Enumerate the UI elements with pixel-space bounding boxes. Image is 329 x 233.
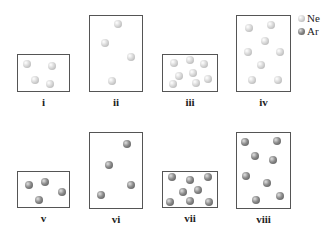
neon-particle-icon [204,75,212,83]
neon-particle-icon [169,80,177,88]
neon-particle-icon [244,48,252,56]
container-label: i [24,96,64,108]
argon-particle-icon [241,138,249,146]
neon-particle-icon [127,53,135,61]
neon-particle-icon [186,56,194,64]
neon-particle-icon [276,48,284,56]
neon-particle-icon [114,20,122,28]
neon-particle-icon [48,62,56,70]
neon-particle-icon [46,80,54,88]
argon-particle-icon [97,191,105,199]
container-label: vi [96,213,136,225]
neon-particle-icon [200,60,208,68]
argon-particle-icon [58,188,66,196]
argon-particle-icon [242,172,250,180]
container-label: iii [170,96,210,108]
neon-particle-icon [192,79,200,87]
neon-particle-icon [31,76,39,84]
argon-particle-icon [298,28,305,35]
neon-particle-icon [274,76,282,84]
argon-particle-icon [194,186,202,194]
neon-particle-icon [245,24,253,32]
legend-label-ne: Ne [307,12,320,24]
container-label: ii [96,96,136,108]
argon-particle-icon [263,179,271,187]
argon-particle-icon [166,198,174,206]
argon-particle-icon [168,173,176,181]
neon-particle-icon [261,37,269,45]
neon-particle-icon [298,15,305,22]
argon-particle-icon [205,198,213,206]
legend-label-ar: Ar [307,25,319,37]
argon-particle-icon [269,156,277,164]
argon-particle-icon [25,181,33,189]
legend-item-ne: Ne [298,12,320,24]
argon-particle-icon [35,196,43,204]
argon-particle-icon [186,176,194,184]
argon-particle-icon [41,178,49,186]
container-label: iv [244,96,284,108]
legend-item-ar: Ar [298,25,319,37]
argon-particle-icon [204,173,212,181]
argon-particle-icon [179,188,187,196]
neon-particle-icon [257,61,265,69]
neon-particle-icon [108,77,116,85]
neon-particle-icon [267,21,275,29]
neon-particle-icon [170,59,178,67]
argon-particle-icon [276,192,284,200]
container-label: viii [244,213,284,225]
neon-particle-icon [101,39,109,47]
neon-particle-icon [23,60,31,68]
argon-particle-icon [273,137,281,145]
neon-particle-icon [189,69,197,77]
neon-particle-icon [248,76,256,84]
argon-particle-icon [186,197,194,205]
argon-particle-icon [127,181,135,189]
argon-particle-icon [252,196,260,204]
argon-particle-icon [123,140,131,148]
argon-particle-icon [251,152,259,160]
container-label: vii [170,212,210,224]
neon-particle-icon [175,72,183,80]
container-label: v [24,212,64,224]
argon-particle-icon [105,161,113,169]
